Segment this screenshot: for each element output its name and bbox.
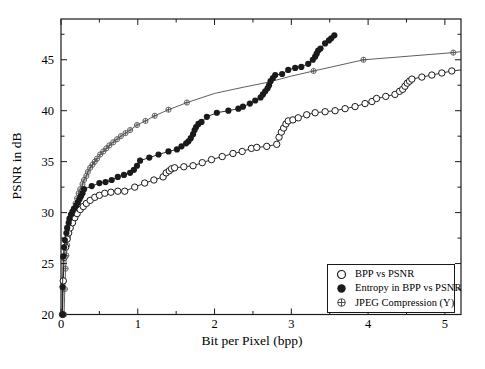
figure: 012345 202530354045 PSNR in dB Bit per P…: [0, 0, 485, 369]
svg-text:3: 3: [288, 317, 294, 331]
x-tick-labels: 012345: [58, 317, 448, 331]
filled-circle-icon: [335, 282, 348, 295]
svg-text:45: 45: [42, 53, 55, 67]
chart-canvas: 012345 202530354045: [0, 0, 485, 369]
svg-text:25: 25: [42, 257, 55, 271]
legend-item: Entropy in BPP vs PSNR: [335, 281, 454, 295]
legend-label: Entropy in BPP vs PSNR: [355, 281, 461, 295]
open-circle-icon: [335, 268, 348, 281]
legend-label: BPP vs PSNR: [355, 267, 414, 281]
svg-text:30: 30: [42, 206, 55, 220]
svg-text:2: 2: [211, 317, 217, 331]
legend-label: JPEG Compression (Y): [355, 296, 454, 310]
y-axis-title: PSNR in dB: [9, 133, 25, 200]
legend-item: JPEG Compression (Y): [335, 296, 454, 310]
svg-text:4: 4: [365, 317, 372, 331]
y-tick-labels: 202530354045: [42, 53, 55, 322]
svg-text:0: 0: [58, 317, 64, 331]
x-axis-title: Bit per Pixel (bpp): [202, 333, 303, 349]
svg-text:1: 1: [135, 317, 141, 331]
legend: BPP vs PSNR Entropy in BPP vs PSNR JPEG …: [327, 264, 455, 313]
svg-text:5: 5: [442, 317, 448, 331]
svg-text:20: 20: [42, 308, 55, 322]
legend-item: BPP vs PSNR: [335, 267, 454, 281]
svg-text:35: 35: [42, 155, 55, 169]
svg-text:40: 40: [42, 104, 55, 118]
circle-plus-icon: [335, 296, 348, 309]
